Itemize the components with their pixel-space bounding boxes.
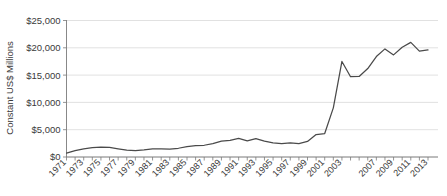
x-tick-label: 1987 xyxy=(184,157,205,178)
x-tick-label: 1975 xyxy=(81,157,102,178)
y-axis-ticks: $0$5,000$10,000$15,000$20,000$25,000 xyxy=(26,15,66,163)
y-tick-label: $20,000 xyxy=(26,42,60,53)
x-tick-label: 2003 xyxy=(322,157,343,178)
x-tick-label: 2007 xyxy=(357,157,378,178)
data-series-line xyxy=(67,42,429,153)
x-tick-label: 1991 xyxy=(219,157,240,178)
x-tick-label: 2009 xyxy=(374,157,395,178)
x-tick-label: 2001 xyxy=(305,157,326,178)
y-tick-label: $25,000 xyxy=(26,15,60,26)
y-tick-label: $15,000 xyxy=(26,70,60,81)
x-tick-label: 1997 xyxy=(270,157,291,178)
x-tick-label: 1979 xyxy=(116,157,137,178)
x-tick-label: 2011 xyxy=(391,157,412,178)
x-axis-ticks: 1971197319751977197919811983198519871989… xyxy=(47,157,430,179)
line-chart: $0$5,000$10,000$15,000$20,000$25,000 197… xyxy=(0,0,447,196)
x-tick-label: 1995 xyxy=(253,157,274,178)
x-tick-label: 1983 xyxy=(150,157,171,178)
y-axis-title: Constant US$ Millions xyxy=(4,41,15,135)
x-tick-label: 2013 xyxy=(408,157,429,178)
y-tick-label: $10,000 xyxy=(26,97,60,108)
x-tick-label: 1981 xyxy=(133,157,154,178)
y-tick-label: $5,000 xyxy=(31,124,60,135)
gridlines xyxy=(67,21,439,158)
x-tick-label: 1985 xyxy=(167,157,188,178)
x-tick-label: 1999 xyxy=(288,157,309,178)
x-tick-label: 1977 xyxy=(98,157,119,178)
x-tick-label: 1973 xyxy=(64,157,85,178)
chart-canvas: $0$5,000$10,000$15,000$20,000$25,000 197… xyxy=(0,0,447,196)
x-tick-label: 1989 xyxy=(202,157,223,178)
x-tick-label: 1993 xyxy=(236,157,257,178)
